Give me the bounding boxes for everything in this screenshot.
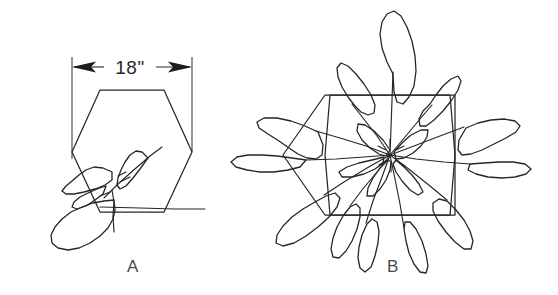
plant-mature-b [231, 11, 531, 273]
plant-leaf-b-bottom-right [404, 222, 428, 273]
figure-canvas: 18" [0, 0, 558, 295]
plant-seedling-a [51, 147, 205, 250]
dimension-value-label: 18" [115, 57, 144, 78]
plant-petiole-b-6 [366, 155, 390, 223]
plant-leaf-b-inner-5 [339, 157, 384, 177]
plant-petiole-b-12 [350, 155, 390, 206]
hexagon-cell-b [283, 95, 455, 215]
panel-b: B [231, 11, 531, 276]
plant-leaf-b-lower-left [276, 193, 340, 246]
plant-stem-runner-a [100, 207, 205, 209]
plant-leaf-b-far-right [468, 162, 531, 178]
panel-label-b: B [387, 257, 399, 276]
plant-leaf-b-inner-1 [357, 124, 390, 156]
plant-leaf-b-right [458, 119, 520, 155]
plant-stem-lower-a [112, 190, 114, 232]
figure-root: 18" [0, 0, 558, 295]
plant-leaf-b-top [380, 11, 416, 104]
plant-petiole-b-3 [316, 131, 390, 155]
plant-leaf-b-far-left [231, 155, 306, 172]
plant-leaf-b-upper-left [337, 63, 375, 115]
plant-leaf-b-bottom-center [358, 219, 379, 272]
plant-petiole-b-9 [390, 155, 470, 164]
panel-a: 18" [51, 57, 205, 276]
plant-leaf-b-lower-left-2 [331, 204, 360, 258]
plant-leaf-a-1 [117, 151, 148, 189]
plant-leaf-b-left [257, 118, 323, 159]
panel-label-a: A [127, 257, 139, 276]
plant-crown-detail-a [100, 172, 130, 196]
plant-leaf-b-lower-right [433, 199, 473, 249]
hexagon-cell-a [72, 90, 192, 212]
plant-stem-main-a [104, 147, 162, 198]
dimension-annotation-18in: 18" [72, 57, 192, 159]
